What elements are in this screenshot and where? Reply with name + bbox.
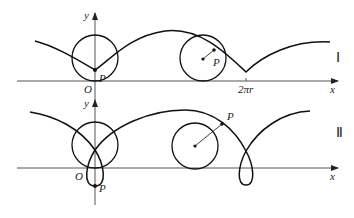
point-p-origin-2 xyxy=(93,184,97,188)
x-label-2: x xyxy=(329,170,335,182)
panel-numeral-2: Ⅱ xyxy=(336,125,343,140)
y-label-1: y xyxy=(83,9,89,21)
x-label-1: x xyxy=(329,83,335,95)
panel-2: y O P P x Ⅱ xyxy=(17,97,343,205)
p-label-origin-2: P xyxy=(98,182,106,194)
tick-label-2pir: 2πr xyxy=(238,83,254,95)
origin-label-1: O xyxy=(84,83,92,95)
point-p-rolling-2 xyxy=(220,122,224,126)
point-p-origin-1 xyxy=(93,68,97,72)
cycloid-diagram: y O P P 2πr x Ⅰ y O P P x Ⅱ xyxy=(0,0,354,218)
panel-1: y O P P 2πr x Ⅰ xyxy=(17,9,340,100)
p-label-rolling-1: P xyxy=(212,56,220,68)
p-label-rolling-2: P xyxy=(226,110,234,122)
p-label-origin-1: P xyxy=(98,72,106,84)
origin-label-2: O xyxy=(75,170,83,182)
panel-numeral-1: Ⅰ xyxy=(336,50,340,65)
curtate-cycloid-curve xyxy=(35,31,330,72)
y-label-2: y xyxy=(83,97,89,109)
point-p-rolling-1 xyxy=(212,48,216,52)
